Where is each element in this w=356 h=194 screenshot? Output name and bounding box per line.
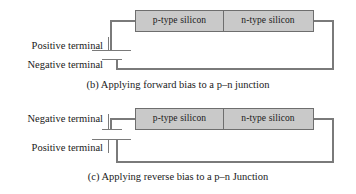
pn-junction-bar: p-type silicon n-type silicon xyxy=(135,10,314,32)
positive-terminal-label: Positive terminal xyxy=(0,143,103,154)
wire-positive-branch xyxy=(111,21,135,50)
p-type-region: p-type silicon xyxy=(136,109,224,129)
reverse-bias-figure: p-type silicon n-type silicon Negative t… xyxy=(0,97,356,194)
positive-terminal-label: Positive terminal xyxy=(0,41,103,52)
n-type-region: n-type silicon xyxy=(224,11,312,31)
n-type-region: n-type silicon xyxy=(224,109,312,129)
p-type-region: p-type silicon xyxy=(136,11,224,31)
wire-negative-branch xyxy=(111,119,135,129)
forward-bias-figure: p-type silicon n-type silicon Positive t… xyxy=(0,0,356,97)
negative-terminal-label: Negative terminal xyxy=(0,114,103,125)
pn-junction-bar: p-type silicon n-type silicon xyxy=(135,108,314,130)
forward-bias-caption: (b) Applying forward bias to a p–n junct… xyxy=(0,80,356,91)
reverse-bias-caption: (c) Applying reverse bias to a p–n Junct… xyxy=(0,172,356,183)
negative-terminal-label: Negative terminal xyxy=(0,60,103,71)
